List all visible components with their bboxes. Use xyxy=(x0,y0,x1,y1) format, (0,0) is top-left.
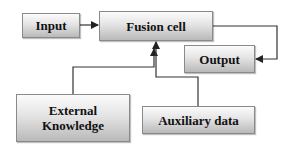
fusion-diagram: Input Fusion cell Output External Knowle… xyxy=(0,0,297,148)
edge-external-fusion xyxy=(73,49,154,94)
fusion-cell-label: Fusion cell xyxy=(126,19,186,34)
fusion-cell-node: Fusion cell xyxy=(99,11,213,41)
output-node-label: Output xyxy=(199,52,239,67)
external-knowledge-line1: External xyxy=(49,103,97,118)
external-knowledge-node: External Knowledge xyxy=(16,94,130,142)
auxiliary-data-node: Auxiliary data xyxy=(142,106,255,134)
auxiliary-data-label: Auxiliary data xyxy=(158,113,239,128)
input-node: Input xyxy=(22,13,80,38)
output-node: Output xyxy=(184,45,255,73)
external-knowledge-line2: Knowledge xyxy=(42,118,104,133)
input-node-label: Input xyxy=(35,18,66,33)
